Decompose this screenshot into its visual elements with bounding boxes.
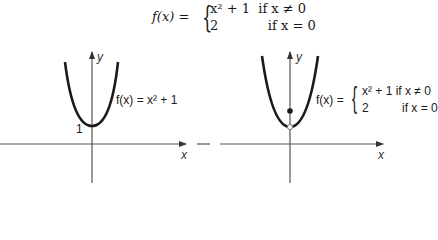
left-y-axis-label: y: [97, 50, 103, 64]
right-case-2: 2 if x = 0: [362, 101, 438, 115]
right-graph: [220, 52, 383, 183]
open-point: [287, 124, 292, 129]
left-x-axis-label: x: [181, 148, 187, 162]
right-x-axis-label: x: [378, 148, 384, 162]
right-brace-icon: {: [352, 83, 357, 113]
left-graph: [0, 52, 210, 183]
right-case-1: x² + 1 if x ≠ 0: [362, 84, 431, 98]
right-function-lhs: f(x) =: [316, 93, 344, 107]
right-y-axis-label: y: [296, 50, 302, 64]
filled-point: [287, 108, 293, 114]
left-intercept-label: 1: [76, 122, 83, 136]
left-function-label: f(x) = x² + 1: [116, 93, 177, 107]
